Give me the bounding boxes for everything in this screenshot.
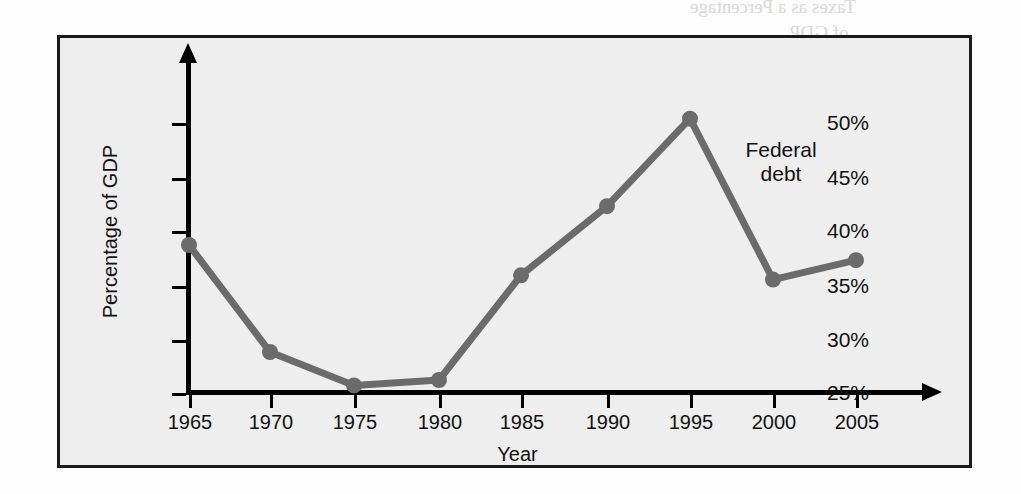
x-axis-title: Year	[60, 443, 972, 466]
y-axis-title: Percentage of GDP	[99, 122, 122, 342]
page-background: Taxes as a Percentage of GDP ng gap was …	[0, 0, 1021, 494]
bleed-text: Taxes as a Percentage	[690, 0, 856, 18]
chart-panel: 50% 45% 40% 35% 30% 25% 1965 1970 1975 1…	[57, 35, 972, 468]
annotation-line-2: debt	[716, 162, 846, 186]
series-federal-debt	[60, 38, 972, 468]
series-annotation-federal-debt: Federal debt	[716, 138, 846, 185]
plot-area: 50% 45% 40% 35% 30% 25% 1965 1970 1975 1…	[60, 38, 969, 465]
annotation-line-1: Federal	[716, 138, 846, 162]
